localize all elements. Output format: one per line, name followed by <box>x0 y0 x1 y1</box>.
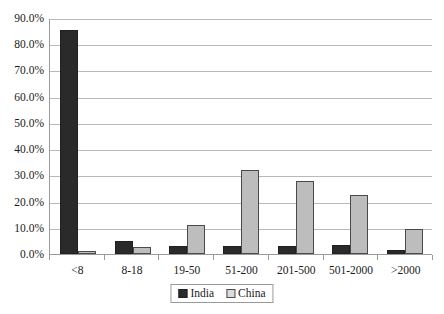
bar-china[interactable] <box>296 181 314 254</box>
y-axis-tick-label: 70.0% <box>14 66 44 78</box>
bars-layer <box>51 19 432 254</box>
x-axis-tick <box>158 255 159 260</box>
bar-group <box>269 19 323 254</box>
x-axis-category-label: 8-18 <box>105 261 160 279</box>
bar-china[interactable] <box>350 195 368 254</box>
bar-group <box>160 19 214 254</box>
y-axis-tick-label: 90.0% <box>14 13 44 25</box>
bar-india[interactable] <box>60 30 78 254</box>
y-axis-tick-label: 0.0% <box>20 249 44 261</box>
y-axis-tick-label: 50.0% <box>14 118 44 130</box>
y-axis-tick-label: 20.0% <box>14 197 44 209</box>
bar-china[interactable] <box>241 170 259 254</box>
y-axis-tick-label: 30.0% <box>14 171 44 183</box>
legend-label: China <box>238 286 265 300</box>
legend-swatch-china-icon <box>226 289 235 298</box>
bar-group <box>214 19 268 254</box>
x-axis-tick <box>49 255 50 260</box>
bar-chart: 0.0%10.0%20.0%30.0%40.0%50.0%60.0%70.0%8… <box>0 0 444 314</box>
bar-china[interactable] <box>133 247 151 254</box>
bar-group <box>51 19 105 254</box>
x-axis-category-label: 501-2000 <box>324 261 379 279</box>
x-axis-tick <box>268 255 269 260</box>
y-axis-tick-label: 10.0% <box>14 223 44 235</box>
plot-area <box>49 19 432 255</box>
x-axis-category-label: 51-200 <box>214 261 269 279</box>
chart-legend: IndiaChina <box>170 284 273 303</box>
legend-entry-india[interactable]: India <box>178 286 214 300</box>
bar-group <box>378 19 432 254</box>
x-axis-category-label: 19-50 <box>159 261 214 279</box>
bar-group <box>105 19 159 254</box>
bar-china[interactable] <box>78 251 96 254</box>
bar-china[interactable] <box>405 229 423 254</box>
bar-india[interactable] <box>115 241 133 254</box>
bar-india[interactable] <box>332 245 350 254</box>
x-axis: <88-1819-5051-200201-500501-2000>2000 <box>50 261 433 279</box>
y-axis-tick-label: 40.0% <box>14 144 44 156</box>
x-axis-tick <box>104 255 105 260</box>
x-axis-tick <box>432 255 433 260</box>
legend-entry-china[interactable]: China <box>226 286 265 300</box>
y-axis-tick-label: 60.0% <box>14 92 44 104</box>
legend-swatch-india-icon <box>178 289 187 298</box>
bar-india[interactable] <box>387 250 405 254</box>
bar-china[interactable] <box>187 225 205 254</box>
bar-india[interactable] <box>223 246 241 254</box>
x-axis-tick <box>377 255 378 260</box>
x-axis-tick <box>213 255 214 260</box>
bar-india[interactable] <box>278 246 296 254</box>
legend-label: India <box>190 286 214 300</box>
x-axis-category-label: 201-500 <box>269 261 324 279</box>
x-axis-category-label: <8 <box>50 261 105 279</box>
bar-group <box>323 19 377 254</box>
x-axis-tick <box>323 255 324 260</box>
bar-india[interactable] <box>169 246 187 254</box>
x-axis-category-label: >2000 <box>378 261 433 279</box>
y-axis: 0.0%10.0%20.0%30.0%40.0%50.0%60.0%70.0%8… <box>0 0 48 256</box>
y-axis-tick-label: 80.0% <box>14 39 44 51</box>
